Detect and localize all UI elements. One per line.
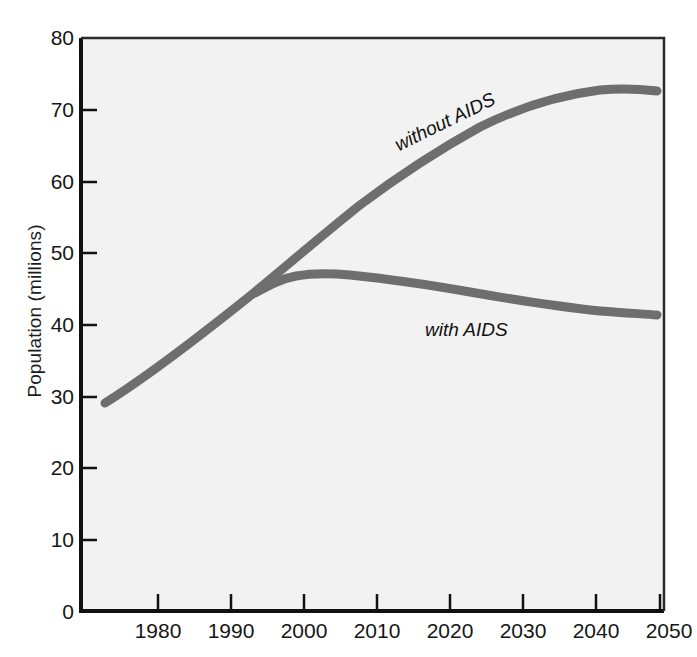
plot-background [81, 38, 664, 611]
annotation-with-aids: with AIDS [425, 319, 508, 341]
